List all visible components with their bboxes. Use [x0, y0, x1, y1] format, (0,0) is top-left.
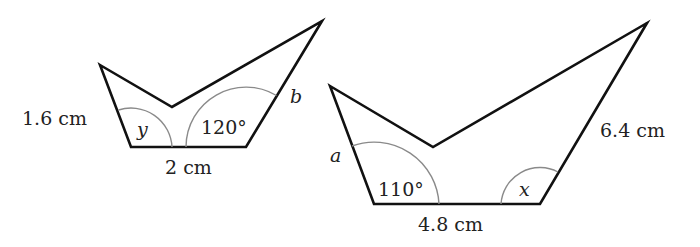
large-pentagon: a 4.8 cm 6.4 cm 110° x: [330, 23, 665, 235]
large-bottom-side-label: 4.8 cm: [418, 213, 483, 235]
small-angle-y-label: y: [136, 118, 148, 140]
small-right-side-label: b: [290, 85, 302, 107]
large-right-side-label: 6.4 cm: [600, 119, 665, 141]
large-angle-110-label: 110°: [378, 178, 424, 200]
similar-shapes-diagram: 1.6 cm 2 cm b y 120° a 4.8 cm 6.4 cm 110…: [0, 0, 700, 247]
small-pentagon: 1.6 cm 2 cm b y 120°: [22, 21, 322, 178]
small-bottom-side-label: 2 cm: [165, 156, 212, 178]
large-angle-x-label: x: [519, 178, 530, 200]
large-left-side-label: a: [330, 144, 341, 166]
small-left-side-label: 1.6 cm: [22, 107, 87, 129]
large-pentagon-outline: [330, 23, 647, 204]
small-angle-120-label: 120°: [201, 116, 247, 138]
